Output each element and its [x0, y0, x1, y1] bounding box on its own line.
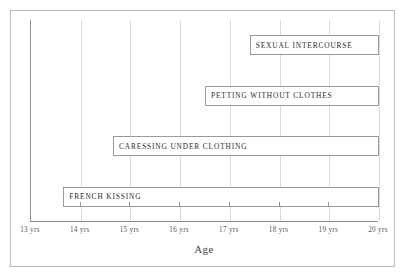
chart-figure: SEXUAL INTERCOURSEPETTING WITHOUT CLOTHE…: [0, 0, 408, 279]
x-axis-tick: [179, 202, 180, 206]
x-axis-tick: [328, 202, 329, 206]
gridline: [379, 20, 380, 221]
bar-label: FRENCH KISSING: [64, 192, 141, 201]
x-axis-tick: [229, 202, 230, 206]
x-axis-tick: [30, 202, 31, 206]
x-axis-title: Age: [30, 243, 378, 255]
x-axis-tick: [279, 202, 280, 206]
x-axis-tick: [378, 202, 379, 206]
bar: PETTING WITHOUT CLOTHES: [205, 86, 379, 106]
x-axis-tick-label: 17 yrs: [219, 226, 239, 234]
x-axis-tick-label: 19 yrs: [318, 226, 338, 234]
bar: FRENCH KISSING: [63, 187, 379, 207]
x-axis-tick-label: 15 yrs: [120, 226, 140, 234]
x-axis-tick: [129, 202, 130, 206]
bar: SEXUAL INTERCOURSE: [250, 35, 379, 55]
x-axis-tick-label: 13 yrs: [20, 226, 40, 234]
bar-label: CARESSING UNDER CLOTHING: [114, 142, 247, 151]
x-axis-tick-label: 20 yrs: [368, 226, 388, 234]
x-axis-tick-label: 14 yrs: [70, 226, 90, 234]
x-axis-tick-label: 16 yrs: [169, 226, 189, 234]
bar: CARESSING UNDER CLOTHING: [113, 136, 379, 156]
x-axis-tick-label: 18 yrs: [269, 226, 289, 234]
plot-area: SEXUAL INTERCOURSEPETTING WITHOUT CLOTHE…: [30, 20, 378, 222]
x-axis-tick: [80, 202, 81, 206]
bar-label: PETTING WITHOUT CLOTHES: [206, 91, 333, 100]
bar-label: SEXUAL INTERCOURSE: [251, 41, 353, 50]
